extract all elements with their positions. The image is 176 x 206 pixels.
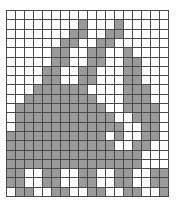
pixel-cell-filled[interactable] — [97, 113, 106, 122]
pixel-cell-filled[interactable] — [16, 160, 25, 169]
pixel-cell-filled[interactable] — [7, 141, 16, 150]
pixel-cell-empty[interactable] — [70, 67, 79, 76]
pixel-cell-filled[interactable] — [52, 67, 61, 76]
pixel-cell-empty[interactable] — [7, 104, 16, 113]
pixel-cell-filled[interactable] — [52, 160, 61, 169]
pixel-cell-filled[interactable] — [70, 85, 79, 94]
pixel-cell-filled[interactable] — [124, 188, 133, 197]
pixel-cell-filled[interactable] — [142, 113, 151, 122]
pixel-cell-filled[interactable] — [34, 113, 43, 122]
pixel-cell-empty[interactable] — [151, 39, 160, 48]
pixel-cell-filled[interactable] — [142, 104, 151, 113]
pixel-cell-empty[interactable] — [52, 39, 61, 48]
pixel-cell-empty[interactable] — [124, 20, 133, 29]
pixel-cell-filled[interactable] — [16, 151, 25, 160]
pixel-cell-empty[interactable] — [106, 85, 115, 94]
pixel-cell-filled[interactable] — [70, 141, 79, 150]
pixel-cell-empty[interactable] — [151, 20, 160, 29]
pixel-cell-filled[interactable] — [88, 48, 97, 57]
pixel-cell-empty[interactable] — [133, 123, 142, 132]
pixel-cell-empty[interactable] — [34, 58, 43, 67]
pixel-cell-filled[interactable] — [88, 132, 97, 141]
pixel-cell-filled[interactable] — [61, 160, 70, 169]
pixel-cell-empty[interactable] — [97, 178, 106, 187]
pixel-cell-empty[interactable] — [160, 67, 169, 76]
pixel-cell-filled[interactable] — [142, 123, 151, 132]
pixel-cell-empty[interactable] — [43, 20, 52, 29]
pixel-cell-empty[interactable] — [133, 11, 142, 20]
pixel-cell-filled[interactable] — [43, 76, 52, 85]
pixel-cell-empty[interactable] — [7, 113, 16, 122]
pixel-cell-empty[interactable] — [133, 169, 142, 178]
pixel-cell-filled[interactable] — [133, 67, 142, 76]
pixel-cell-empty[interactable] — [88, 85, 97, 94]
pixel-cell-filled[interactable] — [52, 188, 61, 197]
pixel-cell-empty[interactable] — [160, 58, 169, 67]
pixel-cell-filled[interactable] — [79, 20, 88, 29]
pixel-cell-filled[interactable] — [88, 76, 97, 85]
pixel-cell-filled[interactable] — [7, 151, 16, 160]
pixel-cell-empty[interactable] — [43, 30, 52, 39]
pixel-cell-empty[interactable] — [133, 39, 142, 48]
pixel-cell-empty[interactable] — [160, 48, 169, 57]
pixel-cell-filled[interactable] — [88, 104, 97, 113]
pixel-cell-filled[interactable] — [61, 104, 70, 113]
pixel-cell-empty[interactable] — [34, 39, 43, 48]
pixel-cell-filled[interactable] — [106, 30, 115, 39]
pixel-cell-empty[interactable] — [16, 58, 25, 67]
pixel-cell-filled[interactable] — [25, 188, 34, 197]
pixel-cell-filled[interactable] — [79, 85, 88, 94]
pixel-cell-empty[interactable] — [25, 11, 34, 20]
pixel-cell-filled[interactable] — [97, 39, 106, 48]
pixel-cell-filled[interactable] — [151, 169, 160, 178]
pixel-cell-empty[interactable] — [70, 76, 79, 85]
pixel-cell-filled[interactable] — [88, 178, 97, 187]
pixel-cell-filled[interactable] — [88, 113, 97, 122]
pixel-cell-empty[interactable] — [142, 76, 151, 85]
pixel-cell-filled[interactable] — [43, 132, 52, 141]
pixel-cell-empty[interactable] — [34, 11, 43, 20]
pixel-cell-empty[interactable] — [7, 95, 16, 104]
pixel-cell-empty[interactable] — [124, 11, 133, 20]
pixel-cell-filled[interactable] — [70, 113, 79, 122]
pixel-cell-filled[interactable] — [88, 188, 97, 197]
pixel-cell-filled[interactable] — [79, 151, 88, 160]
pixel-cell-empty[interactable] — [25, 20, 34, 29]
pixel-cell-empty[interactable] — [70, 48, 79, 57]
pixel-cell-empty[interactable] — [97, 169, 106, 178]
pixel-cell-empty[interactable] — [106, 132, 115, 141]
pixel-cell-filled[interactable] — [61, 39, 70, 48]
pixel-cell-filled[interactable] — [61, 132, 70, 141]
pixel-cell-empty[interactable] — [106, 58, 115, 67]
pixel-cell-filled[interactable] — [133, 160, 142, 169]
pixel-cell-empty[interactable] — [142, 20, 151, 29]
pixel-cell-filled[interactable] — [52, 169, 61, 178]
pixel-cell-empty[interactable] — [25, 67, 34, 76]
pixel-cell-filled[interactable] — [34, 85, 43, 94]
pixel-cell-empty[interactable] — [142, 151, 151, 160]
pixel-cell-empty[interactable] — [106, 169, 115, 178]
pixel-cell-empty[interactable] — [142, 188, 151, 197]
pixel-cell-empty[interactable] — [25, 85, 34, 94]
pixel-cell-filled[interactable] — [16, 123, 25, 132]
pixel-cell-empty[interactable] — [43, 48, 52, 57]
pixel-cell-empty[interactable] — [61, 178, 70, 187]
pixel-cell-empty[interactable] — [16, 11, 25, 20]
pixel-cell-filled[interactable] — [97, 160, 106, 169]
pixel-cell-empty[interactable] — [34, 67, 43, 76]
pixel-cell-empty[interactable] — [97, 67, 106, 76]
pixel-cell-empty[interactable] — [160, 39, 169, 48]
pixel-cell-filled[interactable] — [97, 58, 106, 67]
pixel-cell-empty[interactable] — [43, 11, 52, 20]
pixel-cell-empty[interactable] — [88, 11, 97, 20]
pixel-cell-filled[interactable] — [79, 178, 88, 187]
pixel-cell-empty[interactable] — [115, 48, 124, 57]
pixel-cell-empty[interactable] — [7, 188, 16, 197]
pixel-cell-empty[interactable] — [70, 169, 79, 178]
pixel-cell-empty[interactable] — [16, 95, 25, 104]
pixel-cell-filled[interactable] — [88, 160, 97, 169]
pixel-cell-filled[interactable] — [61, 188, 70, 197]
pixel-cell-empty[interactable] — [151, 30, 160, 39]
pixel-cell-empty[interactable] — [97, 85, 106, 94]
pixel-cell-empty[interactable] — [160, 113, 169, 122]
